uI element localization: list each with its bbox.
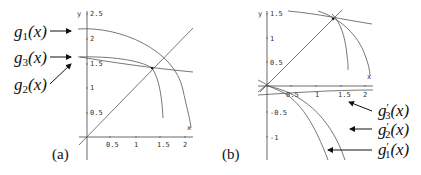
- label-g3-prime: g′3(x): [378, 101, 410, 121]
- fixed-point: [332, 18, 335, 21]
- identity-line: [260, 10, 342, 92]
- label-g1-prime: g′1(x): [378, 140, 410, 160]
- y-tick: 1: [270, 35, 274, 43]
- arrow-g2: [50, 64, 71, 84]
- figure: 0.5 1 1.5 2 2.5 2 1.5 1 0.5 y x g1(x) g3…: [0, 0, 421, 175]
- panel-b: 0.5 1 1.5 2 1.5 1 0.5 -0.5 -1 y x g′3(x)…: [222, 10, 410, 163]
- y-tick: 0.5: [270, 59, 283, 67]
- y-tick: 2: [90, 35, 94, 43]
- x-tick: 2: [363, 91, 367, 99]
- panel-a: 0.5 1 1.5 2 2.5 2 1.5 1 0.5 y x g1(x) g3…: [14, 10, 193, 163]
- identity-line: [79, 28, 193, 145]
- curve-g2-prime: [267, 86, 345, 160]
- x-tick: 1: [134, 141, 138, 149]
- y-tick: 1.5: [270, 10, 283, 18]
- y-axis-label: y: [258, 10, 262, 18]
- y-tick: -0.5: [270, 109, 287, 117]
- x-tick: 1: [315, 91, 319, 99]
- y-tick: 2.5: [90, 10, 103, 18]
- x-tick: 0.5: [106, 141, 119, 149]
- label-g1: g1(x): [14, 22, 47, 42]
- label-g3: g3(x): [14, 48, 47, 68]
- y-tick: 1: [90, 84, 94, 92]
- fixed-point: [151, 67, 154, 70]
- x-tick: 2: [183, 141, 187, 149]
- curve-g1-top: [318, 11, 370, 76]
- label-g2-prime: g′2(x): [378, 120, 410, 140]
- y-tick: -1: [270, 134, 278, 142]
- label-g2: g2(x): [14, 75, 47, 95]
- arrow-g3-prime: [349, 102, 372, 111]
- x-tick: 1.5: [157, 141, 170, 149]
- panel-label-a: (a): [52, 146, 69, 163]
- y-axis-label: y: [77, 10, 81, 18]
- y-tick: 1.5: [90, 60, 103, 68]
- x-tick: 1.5: [338, 91, 351, 99]
- panel-label-b: (b): [222, 146, 240, 163]
- y-tick: 0.5: [90, 109, 103, 117]
- x-axis-label: x: [367, 73, 371, 81]
